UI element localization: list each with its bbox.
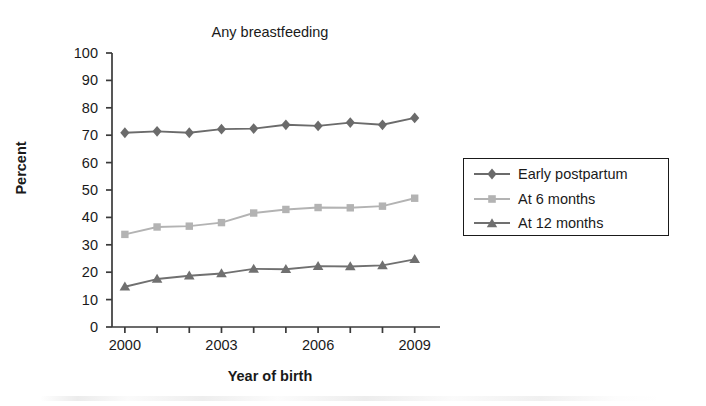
data-point-square bbox=[218, 219, 225, 226]
data-point-diamond bbox=[313, 120, 322, 131]
data-point-square bbox=[314, 204, 321, 211]
legend-marker-diamond-icon bbox=[472, 166, 512, 182]
legend-item-at-12-months: At 12 months bbox=[472, 212, 603, 234]
data-point-diamond bbox=[378, 119, 387, 130]
data-point-diamond bbox=[152, 126, 161, 137]
series-line bbox=[125, 118, 415, 133]
data-point-triangle bbox=[409, 254, 420, 263]
legend-marker-triangle-icon bbox=[472, 215, 512, 231]
legend-label: At 12 months bbox=[518, 215, 603, 231]
series-early-postpartum bbox=[120, 113, 419, 139]
data-point-diamond bbox=[217, 124, 226, 135]
legend-label: At 6 months bbox=[518, 191, 595, 207]
legend-label: Early postpartum bbox=[518, 166, 628, 182]
series-line bbox=[125, 259, 415, 286]
legend-item-at-6-months: At 6 months bbox=[472, 188, 595, 210]
data-point-square bbox=[186, 222, 193, 229]
data-point-diamond bbox=[281, 119, 290, 130]
data-point-square bbox=[121, 231, 128, 238]
data-point-square bbox=[347, 204, 354, 211]
series-at-12-months bbox=[120, 254, 420, 290]
chart-legend: Early postpartum At 6 months At 12 month… bbox=[463, 158, 669, 236]
legend-marker-square-icon bbox=[472, 191, 512, 207]
data-point-square bbox=[153, 223, 160, 230]
data-point-square bbox=[379, 202, 386, 209]
data-point-square bbox=[250, 209, 257, 216]
data-point-diamond bbox=[185, 127, 194, 138]
data-point-diamond bbox=[120, 127, 129, 138]
data-point-diamond bbox=[346, 117, 355, 128]
data-point-diamond bbox=[249, 123, 258, 134]
data-point-square bbox=[282, 206, 289, 213]
scan-artifact bbox=[40, 396, 666, 401]
data-point-diamond bbox=[410, 113, 419, 124]
data-point-square bbox=[411, 195, 418, 202]
legend-item-early-postpartum: Early postpartum bbox=[472, 163, 628, 185]
series-line bbox=[125, 198, 415, 234]
chart-figure: Any breastfeeding Percent Year of birth … bbox=[0, 0, 706, 406]
series-at-6-months bbox=[121, 195, 418, 239]
